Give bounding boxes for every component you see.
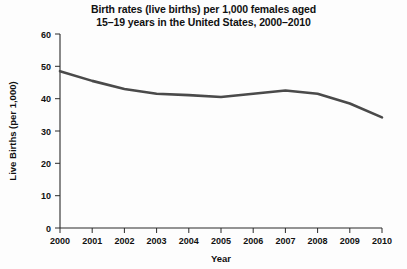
x-tick-label-2003: 2003: [147, 236, 167, 246]
y-axis-title: Live Births (per 1,000): [7, 81, 18, 180]
birth-rate-line: [60, 71, 382, 117]
x-axis: 2000 2001 2002 2003 2004 2005 2006 2007 …: [50, 228, 392, 264]
line-chart-plot: 60 50 40 30 20 10 0 Live Births (per 1,0…: [0, 0, 407, 269]
y-tick-label-20: 20: [41, 159, 51, 169]
x-tick-label-2010: 2010: [372, 236, 392, 246]
x-tick-label-2002: 2002: [114, 236, 134, 246]
x-tick-label-2008: 2008: [308, 236, 328, 246]
y-tick-label-60: 60: [41, 30, 51, 40]
x-tick-label-2001: 2001: [82, 236, 102, 246]
x-tick-label-2004: 2004: [179, 236, 199, 246]
x-tick-label-2005: 2005: [211, 236, 231, 246]
y-tick-label-40: 40: [41, 94, 51, 104]
y-tick-label-30: 30: [41, 127, 51, 137]
x-tick-label-2009: 2009: [340, 236, 360, 246]
x-tick-label-2007: 2007: [275, 236, 295, 246]
chart-figure: Birth rates (live births) per 1,000 fema…: [0, 0, 407, 269]
y-tick-label-50: 50: [41, 62, 51, 72]
data-series-group: [60, 71, 382, 117]
y-tick-label-10: 10: [41, 191, 51, 201]
x-tick-label-2000: 2000: [50, 236, 70, 246]
x-tick-label-2006: 2006: [243, 236, 263, 246]
y-tick-label-0: 0: [46, 224, 51, 234]
x-axis-title: Year: [211, 253, 231, 264]
y-axis: 60 50 40 30 20 10 0 Live Births (per 1,0…: [7, 30, 60, 234]
